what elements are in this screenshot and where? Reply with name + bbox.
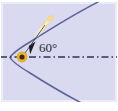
angle-label-60-degrees: 60°: [39, 40, 57, 55]
comet-orbit-figure: 60°: [0, 0, 118, 111]
plot-panel: [3, 4, 115, 100]
figure-root: 60°: [0, 0, 118, 111]
sun-focus-core: [19, 54, 24, 59]
